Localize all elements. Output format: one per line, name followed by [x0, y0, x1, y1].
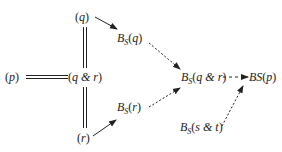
edge-qr-r — [84, 87, 87, 128]
edge-bsst-bsp — [222, 86, 243, 126]
edge-q-bsq — [95, 17, 117, 29]
node-bs-s-and-t: BS(s & t) — [180, 120, 223, 136]
node-bs-p: BS(p) — [249, 70, 276, 84]
belief-diagram: (q) BS(q) (p) (q & r) BS(q & r) BS(p) BS… — [0, 0, 282, 152]
node-r: (r) — [77, 131, 90, 145]
node-bs-q: BS(q) — [117, 31, 142, 47]
edge-r-bsr — [93, 120, 116, 136]
edge-bsq-bsqr — [149, 43, 180, 69]
node-q: (q) — [75, 10, 89, 24]
node-bs-q-and-r: BS(q & r) — [181, 70, 226, 86]
edge-bsr-bsqr — [149, 88, 180, 107]
node-q-and-r: (q & r) — [68, 70, 102, 84]
node-bs-r: BS(r) — [117, 100, 141, 116]
node-p: (p) — [5, 70, 19, 84]
edge-p-qr — [26, 76, 68, 79]
diagram-edges — [0, 0, 282, 152]
edge-q-qr — [84, 27, 87, 68]
